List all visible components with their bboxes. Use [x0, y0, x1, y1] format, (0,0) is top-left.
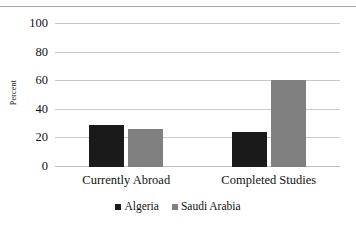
- y-axis-tick-label: 80: [36, 45, 49, 58]
- bar-algeria: [89, 125, 124, 167]
- x-axis-category-label: Completed Studies: [198, 174, 341, 187]
- chart-legend: AlgeriaSaudi Arabia: [0, 201, 356, 213]
- bar-algeria: [232, 132, 267, 167]
- bar-saudi-arabia: [271, 80, 306, 167]
- bars-layer: [55, 24, 340, 167]
- legend-swatch-icon: [115, 204, 121, 210]
- y-axis-tick-label: 20: [36, 131, 49, 144]
- y-axis-tick-label: 60: [36, 74, 49, 87]
- legend-swatch-icon: [172, 204, 178, 210]
- y-axis-title: Percent: [9, 63, 18, 123]
- y-axis-tick-label: 40: [36, 103, 49, 116]
- bar-group: [89, 24, 163, 167]
- y-axis-tick-label: 100: [29, 17, 48, 30]
- legend-item-algeria: Algeria: [115, 201, 158, 213]
- legend-label: Saudi Arabia: [181, 201, 241, 213]
- chart-top-border: [0, 6, 356, 7]
- legend-item-saudi-arabia: Saudi Arabia: [172, 201, 241, 213]
- bar-saudi-arabia: [128, 129, 163, 167]
- legend-label: Algeria: [124, 201, 158, 213]
- y-axis-tick-label: 0: [42, 160, 48, 173]
- plot-area: 020406080100: [55, 24, 340, 167]
- x-axis-category-label: Currently Abroad: [55, 174, 198, 187]
- bar-group: [232, 24, 306, 167]
- bar-chart: Percent 020406080100 Currently AbroadCom…: [0, 0, 356, 226]
